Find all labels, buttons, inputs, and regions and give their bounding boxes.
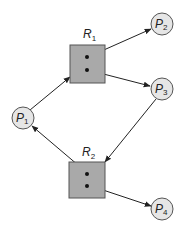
process-p3: P3 <box>151 78 173 100</box>
resource-r1-box <box>70 45 105 83</box>
resource-r2-box <box>69 162 105 198</box>
resource-r1-instance-1 <box>85 55 89 59</box>
resource-r1-label: R1 <box>83 27 97 43</box>
edge-p1-to-r1 <box>30 77 70 110</box>
edge-p3-to-r2 <box>105 99 156 162</box>
process-p1: P1 <box>12 107 34 129</box>
resource-r1-instance-2 <box>85 68 89 72</box>
resource-r1: R1 <box>70 27 105 83</box>
resource-r2: R2 <box>69 145 105 198</box>
resource-r2-label: R2 <box>82 145 96 161</box>
resource-r2-instance-2 <box>85 184 89 188</box>
resource-allocation-graph: R1 R2 P1 P2 P3 P4 <box>0 0 187 235</box>
process-p2: P2 <box>151 13 173 35</box>
resource-r2-instance-1 <box>85 172 89 176</box>
process-p4: P4 <box>151 198 173 220</box>
